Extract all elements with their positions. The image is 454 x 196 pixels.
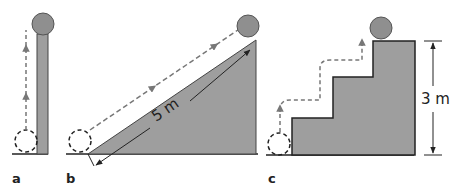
panel-a: a [12,13,54,186]
panel-label-c: c [268,171,276,186]
ball-start-outline [69,130,91,152]
dimension-tick [88,154,94,166]
ball [237,15,259,37]
staircase [292,41,415,155]
panel-label-a: a [12,171,21,186]
arrow-icon [212,46,215,48]
ball-start-outline [15,130,37,152]
diagram-canvas: a 5 m b 3 m c [0,0,454,196]
arrow-icon [150,88,153,90]
column [37,34,48,154]
ball-start-outline [268,133,290,155]
ball [370,17,392,39]
height-label: 3 m [421,90,450,108]
panel-c: 3 m c [266,17,450,186]
panel-label-b: b [66,171,75,186]
panel-b: 5 m b [66,15,259,186]
ball [32,13,54,35]
